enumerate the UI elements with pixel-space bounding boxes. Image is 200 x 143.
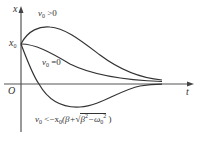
close-paren: ) bbox=[106, 114, 111, 124]
origin-label: O bbox=[8, 86, 15, 96]
label-v0-positive: v0 >0 bbox=[38, 9, 57, 19]
omega: −ω bbox=[88, 114, 100, 124]
relation: >0 bbox=[45, 8, 57, 18]
beta-plus: (β+ bbox=[62, 114, 76, 124]
omega-sub: 0 bbox=[100, 119, 103, 125]
relation: =0 bbox=[49, 57, 61, 67]
damped-oscillation-diagram: x t O x0 v0 >0 v0 =0 v0 <−x0(β+√β2−ω02 ) bbox=[0, 0, 200, 143]
label-v0-zero: v0 =0 bbox=[42, 58, 61, 68]
x-axis-label: x bbox=[13, 4, 17, 14]
sqrt-radicand: β2−ω02 bbox=[80, 113, 106, 124]
t-axis-label: t bbox=[186, 87, 189, 97]
x0-sub: 0 bbox=[13, 43, 16, 49]
relation: <−x bbox=[42, 114, 59, 124]
x0-label: x0 bbox=[9, 38, 16, 49]
label-v0-negative: v0 <−x0(β+√β2−ω02 ) bbox=[35, 113, 112, 125]
x-axis-arrow-icon bbox=[19, 6, 24, 13]
